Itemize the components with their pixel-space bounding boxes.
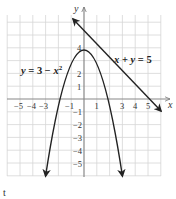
svg-text:−5: −5 xyxy=(73,159,82,169)
svg-text:−3: −3 xyxy=(39,101,48,111)
svg-text:1: 1 xyxy=(95,101,99,111)
svg-text:−5: −5 xyxy=(14,101,23,111)
x-axis-label: x xyxy=(167,99,173,110)
svg-text:−2: −2 xyxy=(73,120,82,130)
svg-text:−4: −4 xyxy=(27,101,37,111)
svg-text:3: 3 xyxy=(120,101,124,111)
coordinate-plane: x y −5 −4 −3 −1 1 3 4 5 4 2 1 −1 −2 −3 −… xyxy=(0,0,176,199)
x-tick-labels: −5 −4 −3 −1 1 3 4 5 xyxy=(14,101,150,111)
line-equation-label: x + y = 5 xyxy=(113,54,152,65)
y-tick-labels: 4 2 1 −1 −2 −3 −4 −5 xyxy=(73,43,83,169)
svg-text:−1: −1 xyxy=(73,107,82,117)
y-axis-label: y xyxy=(73,3,79,14)
parabola-equation-label: y = 3 − x2 xyxy=(19,64,63,76)
svg-text:1: 1 xyxy=(77,82,81,92)
svg-text:5: 5 xyxy=(146,101,150,111)
svg-text:4: 4 xyxy=(133,101,138,111)
svg-text:2: 2 xyxy=(77,69,81,79)
svg-text:−4: −4 xyxy=(73,146,83,156)
cropped-text-fragment: t xyxy=(3,187,6,198)
svg-text:−3: −3 xyxy=(73,133,82,143)
